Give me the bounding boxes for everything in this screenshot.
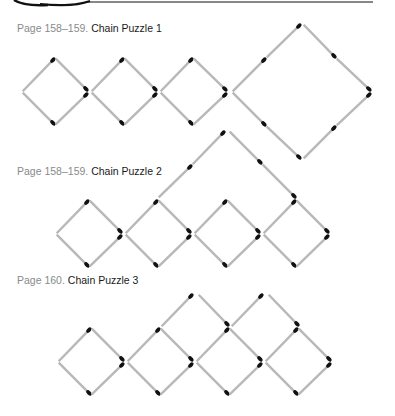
matchstick (297, 236, 328, 266)
matchstick (23, 93, 54, 124)
matchstick (264, 235, 295, 266)
matchstick (57, 235, 88, 266)
matchstick (197, 329, 228, 361)
matchstick (194, 94, 226, 124)
matchstick (337, 94, 370, 125)
matchstick (59, 363, 90, 394)
matchstick (125, 94, 156, 124)
matchstick (266, 363, 297, 394)
matchstick (299, 364, 330, 394)
matchstick (264, 201, 295, 233)
matchstick (194, 59, 226, 90)
matchstick-diagrams (0, 0, 395, 416)
matchstick (56, 94, 87, 124)
matchstick (161, 93, 192, 124)
matchstick (233, 59, 265, 91)
matchstick (56, 59, 87, 90)
matchstick (299, 329, 330, 360)
matchstick (59, 329, 90, 361)
matchstick (128, 329, 159, 361)
matchstick (90, 236, 121, 266)
matchstick (304, 25, 335, 57)
matchstick (92, 329, 123, 360)
matchstick (125, 59, 156, 90)
matchstick (233, 93, 265, 125)
matchstick (267, 127, 300, 158)
matchstick (267, 25, 300, 57)
matchstick (228, 201, 259, 232)
matchstick (159, 166, 191, 197)
matchstick (195, 201, 226, 233)
matchstick (159, 201, 190, 232)
matchstick (195, 235, 226, 266)
matchstick (90, 201, 121, 232)
matchstick (230, 329, 261, 360)
matchstick (23, 59, 54, 91)
matchstick (92, 364, 123, 394)
matchstick (263, 165, 295, 197)
matchstick (230, 364, 261, 394)
matchstick (193, 132, 224, 164)
matchstick (159, 236, 190, 266)
matchstick (161, 364, 192, 394)
matchstick (162, 295, 192, 326)
matchstick (266, 329, 297, 361)
matchstick (230, 132, 261, 163)
matchstick (304, 127, 335, 158)
matchstick (126, 201, 157, 233)
matchstick (126, 235, 157, 266)
matchstick (337, 59, 370, 90)
matchstick (197, 363, 228, 394)
matchstick (161, 329, 192, 360)
matchstick (228, 236, 259, 266)
matchstick (199, 295, 228, 325)
matchstick (128, 363, 159, 394)
matchstick (92, 93, 123, 124)
matchstick (269, 295, 298, 325)
matchstick (232, 295, 262, 326)
matchstick (161, 59, 192, 91)
matchstick (297, 201, 328, 232)
matchstick (57, 201, 88, 233)
matchstick (92, 59, 123, 91)
